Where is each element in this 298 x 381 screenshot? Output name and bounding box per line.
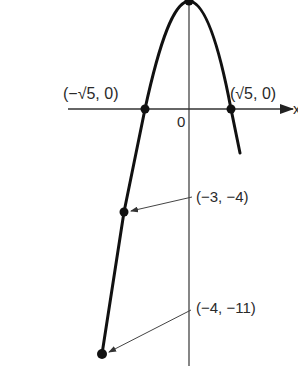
parabola-figure: (−√5, 0) (√5, 0) 0 x (−3, −4) (−4, −11) xyxy=(0,0,298,381)
right-root-label: (√5, 0) xyxy=(230,86,276,102)
point-minus4-dot xyxy=(97,349,107,359)
leader-arrow-minus3 xyxy=(131,197,192,211)
point-minus4-label: (−4, −11) xyxy=(196,300,256,315)
left-root-point xyxy=(141,105,150,114)
right-root-point xyxy=(227,105,236,114)
leader-arrow-minus4 xyxy=(109,310,191,352)
point-minus3-dot xyxy=(120,208,129,217)
left-root-label: (−√5, 0) xyxy=(63,86,118,102)
vertex-point xyxy=(185,0,194,6)
origin-label: 0 xyxy=(177,114,185,129)
x-axis-label: x xyxy=(293,101,298,116)
graph-canvas xyxy=(0,0,298,381)
point-minus3-label: (−3, −4) xyxy=(196,189,249,204)
